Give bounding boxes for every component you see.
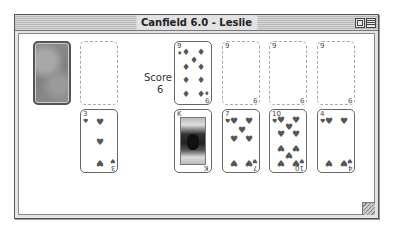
collapse-box-icon[interactable] <box>366 18 376 28</box>
heart-icon: ♥ <box>277 158 285 167</box>
diamond-icon: ♦ <box>182 63 190 72</box>
diamond-icon: ♦ <box>197 76 205 85</box>
diamond-icon: ♦ <box>182 48 190 57</box>
heart-icon: ♥ <box>96 158 104 167</box>
card-rank: 10 <box>295 164 304 171</box>
face-card-art <box>180 117 206 165</box>
tableau-pile-2[interactable]: 7 ♥ ♥ ♥ ♥ ♥ ♥ ♥ ♥ ♥ 7 <box>222 109 260 173</box>
heart-icon: ♥ <box>325 158 333 167</box>
card-rank: 7 <box>253 164 257 171</box>
window-title: Canfield 6.0 - Leslie <box>136 15 257 30</box>
zoom-box-icon[interactable] <box>355 18 365 28</box>
score-label: Score <box>144 72 172 83</box>
diamond-icon: ♦ <box>182 76 190 85</box>
diamond-icon: ♦ <box>182 90 190 99</box>
foundation-pile-4[interactable]: 9 9 <box>317 41 355 105</box>
tableau-pile-4[interactable]: 4 ♥ ♥ ♥ ♥ ♥ ♥ 4 <box>317 109 355 173</box>
tableau-pile-1[interactable]: K K <box>174 109 212 173</box>
title-bar[interactable]: Canfield 6.0 - Leslie <box>15 15 378 31</box>
heart-icon: ♥ <box>230 135 238 144</box>
base-rank-label: 9 <box>225 43 229 50</box>
heart-icon: ♥ <box>83 118 88 124</box>
heart-icon: ♥ <box>277 116 285 125</box>
foundation-pile-1[interactable]: 9 ♦ ♦ ♦ ♦ ♦ ♦ ♦ ♦ ♦ ♦ ♦ 9 <box>174 41 212 105</box>
score-value: 6 <box>157 84 163 95</box>
heart-icon: ♥ <box>292 130 300 139</box>
game-window: Canfield 6.0 - Leslie Score 6 9 ♦ ♦ ♦ ♦ … <box>14 14 379 219</box>
game-table: Score 6 9 ♦ ♦ ♦ ♦ ♦ ♦ ♦ ♦ ♦ ♦ ♦ 9 9 9 9 … <box>18 33 375 215</box>
resize-grip[interactable] <box>362 202 375 215</box>
foundation-pile-3[interactable]: 9 9 <box>269 41 307 105</box>
heart-icon: ♥ <box>96 118 104 127</box>
base-rank-label: 9 <box>253 96 257 103</box>
diamond-icon: ♦ <box>197 63 205 72</box>
heart-icon: ♥ <box>292 116 300 125</box>
foundation-pile-2[interactable]: 9 9 <box>222 41 260 105</box>
card-rank: K <box>204 164 209 171</box>
heart-icon: ♥ <box>325 117 333 126</box>
base-rank-label: 9 <box>300 96 304 103</box>
heart-icon: ♥ <box>230 117 238 126</box>
reserve-pile[interactable]: 3 ♥ ♥ ♥ ♥ ♥ 3 <box>80 109 118 173</box>
heart-icon: ♥ <box>230 158 238 167</box>
heart-icon: ♥ <box>277 130 285 139</box>
heart-icon: ♥ <box>245 135 253 144</box>
waste-pile[interactable] <box>80 41 118 105</box>
tableau-pile-3[interactable]: 10 ♥ ♥ ♥ ♥ ♥ ♥ ♥ ♥ ♥ ♥ ♥ ♥ 10 <box>269 109 307 173</box>
base-rank-label: 9 <box>348 96 352 103</box>
stock-pile[interactable] <box>33 41 71 105</box>
heart-icon: ♥ <box>292 143 300 152</box>
card-rank: 9 <box>205 96 209 103</box>
base-rank-label: 9 <box>272 43 276 50</box>
card-rank: 4 <box>348 164 352 171</box>
heart-icon: ♥ <box>340 117 348 126</box>
diamond-icon: ♦ <box>197 48 205 57</box>
card-rank: 3 <box>111 164 115 171</box>
heart-icon: ♥ <box>96 138 104 147</box>
heart-icon: ♥ <box>277 143 285 152</box>
base-rank-label: 9 <box>320 43 324 50</box>
heart-icon: ♥ <box>245 117 253 126</box>
